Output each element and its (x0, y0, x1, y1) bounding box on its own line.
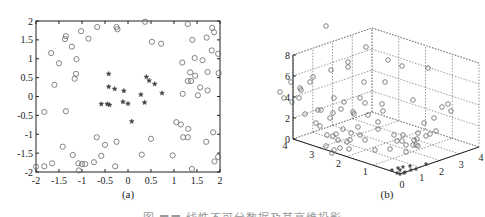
circle-marker (356, 125, 361, 130)
circle-marker (364, 45, 369, 50)
circle-marker (212, 159, 217, 164)
y-tick-label: 2 (336, 158, 341, 169)
star-marker (126, 101, 131, 106)
circle-marker (341, 127, 346, 132)
circle-marker (178, 122, 183, 127)
circle-marker (159, 41, 164, 46)
circle-marker (188, 78, 193, 83)
x-tick-label: 0 (126, 175, 131, 186)
circle-marker (52, 82, 57, 87)
circle-marker (324, 144, 329, 149)
circle-marker (185, 21, 190, 26)
z-tick-label: 4 (285, 92, 290, 103)
y-tick-label: 1 (28, 53, 33, 64)
y-tick-label: -0.5 (17, 110, 33, 121)
star-marker (414, 167, 418, 171)
circle-marker (188, 70, 193, 75)
scatter-plot-3d: 01234123402468 (b) (240, 0, 485, 210)
circle-marker (76, 161, 81, 166)
z-tick-label: 8 (285, 50, 290, 61)
circle-marker (434, 129, 439, 134)
circle-marker (392, 133, 397, 138)
circle-marker (415, 137, 420, 142)
circle-marker (449, 109, 454, 114)
x-tick-label: 1.5 (191, 175, 204, 186)
star-marker (152, 81, 157, 86)
circle-marker (142, 19, 147, 24)
circle-marker (114, 139, 119, 144)
circle-marker (314, 121, 319, 126)
circle-marker (200, 58, 205, 63)
circle-marker (190, 37, 195, 42)
circle-marker (400, 139, 405, 144)
star-marker (112, 86, 117, 91)
circle-marker (170, 153, 175, 158)
x-tick-label: 0.5 (145, 175, 158, 186)
circle-marker (428, 132, 433, 137)
circle-marker (363, 101, 368, 106)
circle-marker (205, 69, 210, 74)
star-marker (121, 99, 126, 104)
circle-marker (346, 60, 351, 65)
circle-marker (193, 73, 198, 78)
circle-marker (86, 36, 91, 41)
y-tick-label: -1.5 (17, 148, 33, 159)
circle-marker (60, 144, 65, 149)
circle-marker (139, 152, 144, 157)
star-marker (99, 102, 104, 107)
star-marker (142, 100, 147, 105)
circle-marker (395, 139, 400, 144)
circle-marker (373, 148, 378, 153)
circle-marker (94, 135, 99, 140)
x-tick-label: 3 (459, 159, 464, 170)
y-tick-label: 0 (28, 91, 33, 102)
x-tick-label: -1.5 (51, 175, 67, 186)
star-marker (395, 171, 399, 175)
circle-marker (346, 65, 351, 70)
x-tick-label: 2 (439, 166, 444, 177)
circle-marker (297, 96, 302, 101)
x-tick-label: -0.5 (97, 175, 113, 186)
circle-marker (148, 136, 153, 141)
circle-marker (180, 91, 185, 96)
y-tick-label: 2 (28, 16, 33, 27)
x-tick-label: 1 (419, 172, 424, 183)
circle-marker (195, 93, 200, 98)
x-tick-label: -1 (78, 175, 86, 186)
circle-marker (211, 30, 216, 35)
circle-marker (211, 130, 216, 135)
circle-marker (290, 100, 295, 105)
circle-marker (74, 57, 79, 62)
y-tick-label: -2 (25, 167, 33, 178)
circle-marker (192, 55, 197, 60)
circle-marker (381, 109, 386, 114)
circle-marker (73, 71, 78, 76)
circle-marker (204, 139, 209, 144)
circle-marker (383, 80, 388, 85)
circle-marker (186, 126, 191, 131)
star-marker (396, 166, 400, 170)
star-marker (408, 164, 412, 168)
circle-marker (338, 146, 343, 151)
star-marker (106, 71, 111, 76)
circle-marker (446, 102, 451, 107)
circle-marker (363, 138, 368, 143)
circle-marker (347, 147, 352, 152)
circle-marker (113, 164, 118, 169)
circle-marker (308, 80, 313, 85)
circle-marker (325, 133, 330, 138)
x-tick-label: 2 (218, 175, 223, 186)
star-marker (160, 91, 165, 96)
circle-marker (205, 88, 210, 93)
circle-marker (278, 90, 283, 95)
figure-caption: 图 ■■ 线性不可分数据及其高维投影 (0, 209, 485, 217)
circle-marker (342, 100, 347, 105)
y-tick-label: -1 (25, 129, 33, 140)
circle-marker (149, 39, 154, 44)
panel-label-b: (b) (381, 188, 394, 201)
star-marker (106, 84, 111, 89)
circle-marker (198, 85, 203, 90)
circle-marker (440, 105, 445, 110)
circle-marker (95, 24, 100, 29)
circle-marker (386, 58, 391, 63)
